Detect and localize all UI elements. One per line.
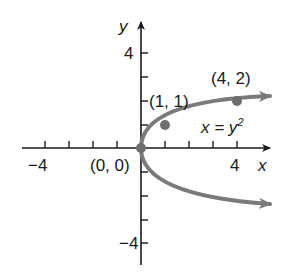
equation-label: x = y2 xyxy=(200,116,244,137)
point-4-2-label: (4, 2) xyxy=(211,69,251,88)
parabola-graph: y x 4 −4 −4 4 (0, 0) (1, 1) (4, 2) x = y… xyxy=(0,0,290,277)
lower-branch xyxy=(141,148,270,204)
origin-label: (0, 0) xyxy=(90,156,130,175)
x-tick-label-neg4: −4 xyxy=(28,156,47,175)
point-4-2 xyxy=(232,96,242,106)
y-tick-label-neg4: −4 xyxy=(119,234,138,253)
point-origin xyxy=(136,143,146,153)
axes xyxy=(22,22,270,265)
parabola-curve xyxy=(141,96,270,204)
point-1-1 xyxy=(160,120,170,130)
y-tick-label-4: 4 xyxy=(124,44,133,63)
point-1-1-label: (1, 1) xyxy=(149,92,189,111)
x-axis-label: x xyxy=(257,156,267,175)
y-axis-label: y xyxy=(118,17,129,36)
x-tick-label-4: 4 xyxy=(230,156,239,175)
